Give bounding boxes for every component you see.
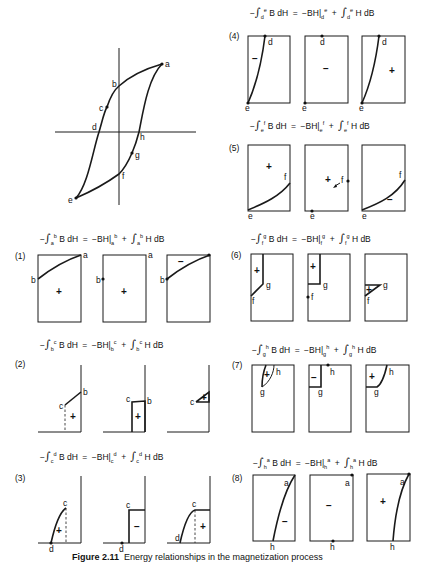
svg-text:d: d	[175, 533, 180, 543]
svg-text:e: e	[310, 211, 315, 221]
svg-text:+: +	[366, 284, 372, 295]
point-c-label: c	[99, 103, 104, 113]
svg-text:+: +	[201, 392, 207, 403]
svg-text:+: +	[264, 369, 270, 380]
svg-text:f: f	[252, 296, 255, 306]
svg-text:+: +	[200, 521, 206, 532]
svg-text:a: a	[148, 250, 153, 260]
svg-text:g: g	[323, 280, 328, 290]
svg-text:a: a	[400, 477, 405, 487]
svg-text:e: e	[245, 103, 250, 113]
svg-text:−: −	[387, 194, 393, 205]
panel-5: f e + f e + f e −	[248, 145, 405, 221]
panel-6: g f + g f + g f +	[251, 254, 407, 321]
svg-text:d: d	[320, 37, 325, 47]
panel-number-8: (8)	[232, 473, 242, 483]
point-g-label: g	[135, 150, 140, 160]
panel-2: b c + c b + c +	[38, 365, 209, 432]
svg-text:h: h	[390, 542, 395, 552]
svg-text:g: g	[374, 387, 379, 397]
svg-text:+: +	[56, 286, 62, 297]
svg-text:+: +	[266, 161, 272, 172]
svg-text:e: e	[248, 211, 253, 221]
panel-4: d e − d e − d e +	[245, 34, 405, 113]
svg-text:b: b	[83, 387, 88, 397]
panel-number-2: (2)	[15, 359, 25, 369]
panel-number-6: (6)	[231, 250, 241, 260]
svg-text:−: −	[323, 63, 329, 74]
svg-text:c: c	[192, 499, 197, 509]
svg-text:h: h	[276, 367, 281, 377]
svg-text:+: +	[56, 525, 62, 536]
svg-text:d: d	[382, 37, 387, 47]
panel-1: a b + a b + b −	[31, 250, 211, 322]
hysteresis-loop: a b c d e f g h	[55, 48, 196, 205]
svg-text:h: h	[330, 542, 335, 552]
svg-text:−: −	[326, 500, 332, 511]
svg-text:f: f	[311, 292, 314, 302]
svg-text:g: g	[318, 387, 323, 397]
svg-text:−: −	[282, 516, 288, 527]
svg-text:−: −	[134, 521, 140, 532]
point-f-label: f	[122, 171, 125, 181]
svg-text:+: +	[380, 496, 386, 507]
svg-text:c: c	[63, 498, 68, 508]
svg-text:g: g	[383, 280, 388, 290]
svg-text:b: b	[31, 275, 36, 285]
svg-text:e: e	[359, 103, 364, 113]
svg-text:+: +	[121, 286, 127, 297]
figure-canvas: a b c d e f g h a b + a b + b − b c + c	[0, 0, 422, 564]
svg-text:b: b	[96, 275, 101, 285]
panel-number-4: (4)	[229, 31, 239, 41]
svg-text:g: g	[266, 280, 271, 290]
svg-text:g: g	[260, 387, 265, 397]
svg-text:f: f	[367, 296, 370, 306]
panel-7: h g + h g − h g +	[252, 363, 409, 432]
svg-text:+: +	[369, 371, 375, 382]
panel-number-1: (1)	[15, 251, 25, 261]
figure-caption: Figure 2.11 Energy relationships in the …	[72, 552, 323, 562]
panel-number-5: (5)	[229, 143, 239, 153]
svg-text:−: −	[178, 256, 184, 267]
svg-text:c: c	[126, 394, 131, 404]
svg-text:c: c	[190, 397, 195, 407]
svg-text:h: h	[389, 367, 394, 377]
svg-text:+: +	[70, 411, 76, 422]
svg-text:e: e	[362, 211, 367, 221]
point-b-label: b	[112, 79, 117, 89]
svg-text:+: +	[310, 261, 316, 272]
svg-text:f: f	[399, 170, 402, 180]
svg-text:f: f	[341, 175, 344, 185]
svg-text:d: d	[268, 37, 273, 47]
panel-number-3: (3)	[15, 473, 25, 483]
svg-text:h: h	[270, 542, 275, 552]
svg-text:+: +	[325, 174, 331, 185]
svg-text:a: a	[345, 478, 350, 488]
svg-text:d: d	[49, 544, 54, 554]
point-d-label: d	[92, 122, 97, 132]
panel-3: c d + c d − c d +	[38, 476, 210, 554]
svg-text:c: c	[126, 500, 131, 510]
svg-text:−: −	[311, 372, 317, 383]
svg-text:c: c	[59, 401, 64, 411]
svg-text:+: +	[389, 65, 395, 76]
svg-text:e: e	[302, 103, 307, 113]
svg-text:b: b	[147, 396, 152, 406]
panel-number-7: (7)	[232, 360, 242, 370]
svg-text:+: +	[254, 265, 260, 276]
svg-text:−: −	[252, 53, 258, 64]
svg-text:b: b	[160, 275, 165, 285]
point-h-label: h	[140, 132, 145, 142]
point-e-label: e	[68, 195, 73, 205]
svg-text:f: f	[284, 172, 287, 182]
svg-text:a: a	[83, 250, 88, 260]
svg-text:a: a	[284, 478, 289, 488]
svg-text:h: h	[330, 367, 335, 377]
point-a-label: a	[165, 59, 170, 69]
svg-text:+: +	[135, 411, 141, 422]
panel-8: a h − a h − a h +	[253, 472, 411, 552]
